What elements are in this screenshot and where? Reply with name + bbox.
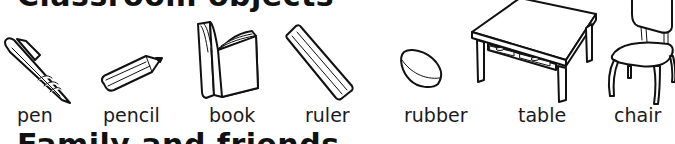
chair-icon — [0, 0, 675, 110]
section-heading-family-and-friends: Family and friends — [17, 130, 340, 144]
item-label-chair: chair — [614, 104, 661, 126]
